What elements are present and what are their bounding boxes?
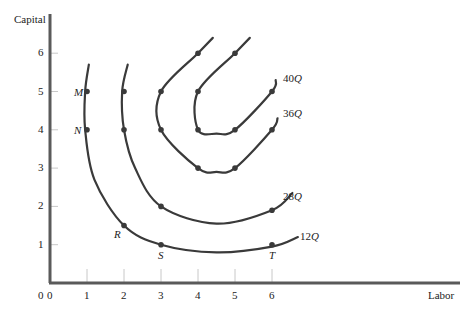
isoquant-label-12Q: 12Q <box>300 231 319 242</box>
data-point <box>195 89 201 95</box>
data-point <box>232 50 238 56</box>
point-label-S: S <box>158 250 164 261</box>
point-label-M: M <box>74 87 83 98</box>
isoquant-chart <box>0 0 475 319</box>
data-point <box>158 204 164 210</box>
y-tick-label: 3 <box>38 162 44 173</box>
data-point <box>158 89 164 95</box>
x-tick-label: 1 <box>84 290 90 301</box>
isoquant-curve-12Q <box>84 65 298 253</box>
data-point <box>121 223 127 229</box>
y-tick-label: 6 <box>38 47 44 58</box>
x-tick-label: 3 <box>158 290 164 301</box>
isoquant-plot <box>0 0 475 319</box>
point-label-R: R <box>114 229 121 240</box>
data-point <box>232 165 238 171</box>
data-point <box>84 89 90 95</box>
data-point <box>269 242 275 248</box>
point-label-T: T <box>269 250 275 261</box>
isoquant-label-40Q: 40Q <box>283 73 302 84</box>
y-tick-label: 4 <box>38 124 44 135</box>
x-tick-label: 0 <box>47 290 53 301</box>
isoquant-label-36Q: 36Q <box>283 108 302 119</box>
data-point <box>195 165 201 171</box>
origin-label: 0 <box>38 290 44 301</box>
data-point <box>269 127 275 133</box>
data-point <box>84 127 90 133</box>
x-tick-label: 4 <box>195 290 201 301</box>
y-tick-label: 2 <box>38 200 44 211</box>
data-point <box>195 50 201 56</box>
x-axis-label: Labor <box>428 290 454 301</box>
point-label-N: N <box>74 125 81 136</box>
data-point <box>121 127 127 133</box>
data-point <box>269 207 275 213</box>
x-tick-label: 5 <box>232 290 238 301</box>
data-point <box>158 242 164 248</box>
data-point <box>232 127 238 133</box>
y-tick-label: 5 <box>38 86 44 97</box>
x-tick-label: 2 <box>121 290 127 301</box>
isoquant-label-28Q: 28Q <box>283 191 302 202</box>
data-point <box>269 89 275 95</box>
isoquant-curve-28Q <box>122 65 292 224</box>
data-point <box>121 89 127 95</box>
data-point <box>195 127 201 133</box>
y-tick-label: 1 <box>38 239 44 250</box>
x-tick-label: 6 <box>269 290 275 301</box>
y-axis-label: Capital <box>14 14 46 25</box>
data-point <box>158 127 164 133</box>
